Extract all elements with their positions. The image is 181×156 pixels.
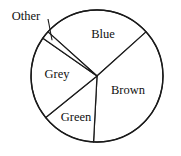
pie-chart-figure: Blue Brown Green Grey Other: [0, 0, 181, 156]
pie-label-other: Other: [12, 9, 41, 23]
pie-label-brown: Brown: [111, 83, 146, 97]
pie-chart-svg: Blue Brown Green Grey Other: [0, 0, 181, 156]
pie-label-blue: Blue: [91, 27, 115, 41]
pie-label-green: Green: [61, 110, 92, 124]
pie-label-grey: Grey: [45, 67, 71, 81]
